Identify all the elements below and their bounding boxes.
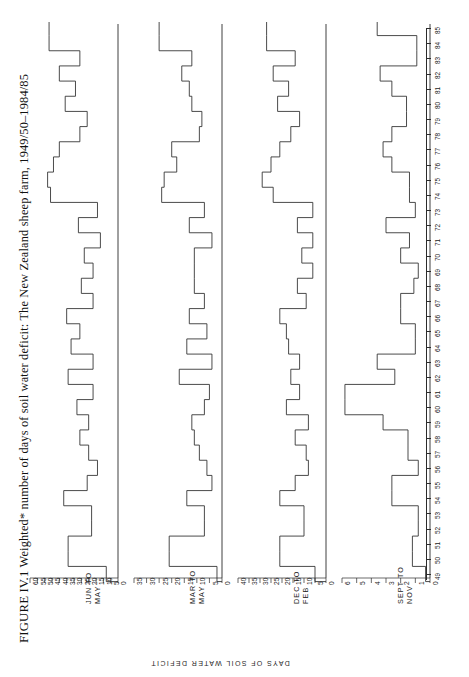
x-tick bbox=[427, 180, 431, 181]
x-tick bbox=[427, 513, 431, 514]
x-tick bbox=[427, 74, 431, 75]
x-tick bbox=[427, 286, 431, 287]
y-tick-label: 35 bbox=[136, 577, 143, 585]
y-tick-label: 25 bbox=[162, 577, 169, 585]
panel-caption-dec-to-feb: DEC TOFEB bbox=[292, 571, 310, 605]
x-tick-label: 66 bbox=[434, 315, 441, 322]
y-tick-label: 5 bbox=[113, 581, 120, 585]
x-tick-label: 51 bbox=[434, 542, 441, 549]
plot-area: 051015202530354045505560JUN TOMAY0510152… bbox=[18, 22, 450, 622]
panel-caption-line: MAY bbox=[93, 572, 102, 604]
x-tick bbox=[427, 271, 431, 272]
x-tick-label: 79 bbox=[434, 117, 441, 124]
panel-sept-to-nov: 0123456SEPT TONOV bbox=[334, 22, 434, 622]
x-tick-label: 84 bbox=[434, 42, 441, 49]
panel-caption-line: SEPT TO bbox=[396, 566, 405, 604]
x-tick-label: 83 bbox=[434, 57, 441, 64]
y-tick-label: 40 bbox=[240, 577, 247, 585]
y-tick-label: 25 bbox=[273, 577, 280, 585]
panel-plot-jun-to-may bbox=[22, 22, 122, 588]
x-tick-label: 63 bbox=[434, 360, 441, 367]
panel-caption-line: MAY bbox=[197, 570, 206, 604]
x-tick-label: 61 bbox=[434, 390, 441, 397]
x-tick-label: 71 bbox=[434, 239, 441, 246]
x-tick-label: 65 bbox=[434, 330, 441, 337]
x-tick-label: 70 bbox=[434, 254, 441, 261]
x-tick bbox=[427, 28, 431, 29]
x-tick-label: 82 bbox=[434, 72, 441, 79]
step-trace-jun-to-may bbox=[48, 22, 118, 582]
x-tick bbox=[427, 165, 431, 166]
x-tick bbox=[427, 58, 431, 59]
x-tick-label: 57 bbox=[434, 451, 441, 458]
x-tick-label: 74 bbox=[434, 193, 441, 200]
x-tick bbox=[427, 453, 431, 454]
y-tick-label: 55 bbox=[40, 577, 47, 585]
x-tick bbox=[427, 134, 431, 135]
x-axis-labels: 4950515253545556575859606162636465666768… bbox=[424, 22, 454, 622]
x-tick bbox=[427, 422, 431, 423]
x-tick bbox=[427, 240, 431, 241]
panel-dec-to-feb: 0510152025303540DEC TOFEB bbox=[230, 22, 330, 622]
x-tick bbox=[427, 392, 431, 393]
x-tick bbox=[427, 119, 431, 120]
x-tick-label: 80 bbox=[434, 102, 441, 109]
y-tick-label: 5 bbox=[359, 581, 366, 585]
panel-plot-mar-to-may bbox=[126, 22, 226, 588]
y-tick-label: 35 bbox=[251, 577, 258, 585]
x-tick-label: 60 bbox=[434, 406, 441, 413]
x-tick bbox=[427, 529, 431, 530]
x-tick-label: 68 bbox=[434, 284, 441, 291]
x-tick bbox=[427, 483, 431, 484]
y-tick-label: 5 bbox=[317, 581, 324, 585]
x-tick-label: 52 bbox=[434, 527, 441, 534]
x-tick bbox=[427, 43, 431, 44]
panel-caption-sept-to-nov: SEPT TONOV bbox=[396, 566, 414, 604]
y-tick-label: 4 bbox=[374, 581, 381, 585]
x-tick bbox=[427, 301, 431, 302]
x-tick-label: 76 bbox=[434, 163, 441, 170]
y-tick-label: 20 bbox=[174, 577, 181, 585]
x-tick-label: 56 bbox=[434, 466, 441, 473]
x-tick-label: 73 bbox=[434, 208, 441, 215]
x-tick bbox=[427, 195, 431, 196]
x-tick-label: 67 bbox=[434, 299, 441, 306]
y-tick-label: 20 bbox=[284, 577, 291, 585]
x-tick-label: 62 bbox=[434, 375, 441, 382]
x-tick-label: 69 bbox=[434, 269, 441, 276]
x-tick-label: 54 bbox=[434, 497, 441, 504]
x-tick bbox=[427, 377, 431, 378]
x-tick-label: 59 bbox=[434, 421, 441, 428]
x-tick bbox=[427, 498, 431, 499]
x-tick bbox=[427, 438, 431, 439]
panel-caption-mar-to-may: MAR TOMAY bbox=[188, 570, 206, 604]
y-tick-label: 45 bbox=[54, 577, 61, 585]
y-tick-label: 3 bbox=[388, 581, 395, 585]
x-tick bbox=[427, 468, 431, 469]
x-tick-label: 77 bbox=[434, 148, 441, 155]
panel-plot-dec-to-feb bbox=[230, 22, 330, 588]
panel-caption-jun-to-may: JUN TOMAY bbox=[84, 572, 102, 604]
step-trace-sept-to-nov bbox=[345, 22, 430, 582]
y-tick-label: 50 bbox=[47, 577, 54, 585]
panel-caption-line: MAR TO bbox=[188, 570, 197, 604]
x-tick-label: 85 bbox=[434, 26, 441, 33]
x-tick bbox=[427, 104, 431, 105]
x-tick bbox=[427, 225, 431, 226]
panel-plot-sept-to-nov bbox=[334, 22, 434, 588]
x-tick bbox=[427, 89, 431, 90]
x-tick-label: 55 bbox=[434, 481, 441, 488]
x-tick-label: 75 bbox=[434, 178, 441, 185]
panel-caption-line: FEB bbox=[301, 571, 310, 605]
x-tick-label: 58 bbox=[434, 436, 441, 443]
panel-caption-line: JUN TO bbox=[84, 572, 93, 604]
x-tick-label: 50 bbox=[434, 557, 441, 564]
panel-caption-line: NOV bbox=[405, 566, 414, 604]
x-tick bbox=[427, 544, 431, 545]
x-tick bbox=[427, 210, 431, 211]
x-tick-label: 72 bbox=[434, 224, 441, 231]
y-tick-label: 60 bbox=[32, 577, 39, 585]
y-tick-label: 6 bbox=[344, 581, 351, 585]
x-tick bbox=[427, 316, 431, 317]
x-tick bbox=[427, 407, 431, 408]
